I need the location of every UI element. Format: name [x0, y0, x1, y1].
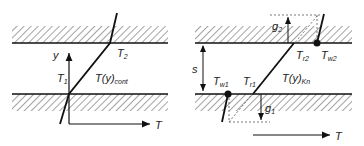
- t-axis-label: T: [335, 130, 343, 142]
- tw1-label: Tw1: [213, 75, 229, 88]
- left-panel: y T T1 T2 T(y)cont: [12, 13, 168, 131]
- tw1-point: [225, 91, 232, 98]
- bottom-wall-hatch: [12, 94, 168, 111]
- tw2-label: Tw2: [321, 49, 337, 62]
- gap-label: s: [192, 63, 198, 75]
- t-axis-label: T: [155, 119, 163, 131]
- top-wall-hatch: [12, 26, 168, 43]
- temperature-profile-knudsen: [253, 43, 294, 94]
- right-panel: s T Tw1 Tr1 Tr2 Tw2 T(y)Kn g1 g2: [192, 14, 352, 142]
- profile-label: T(y)Kn: [282, 72, 310, 85]
- y-axis-label: y: [52, 49, 60, 61]
- t2-label: T2: [117, 47, 128, 60]
- g2-label: g2: [272, 20, 282, 33]
- tw2-point: [314, 40, 321, 47]
- diagram-canvas: y T T1 T2 T(y)cont s T: [0, 0, 364, 146]
- t1-label: T1: [57, 72, 68, 85]
- tr2-label: Tr2: [296, 49, 309, 62]
- tr1-label: Tr1: [243, 75, 256, 88]
- profile-label: T(y)cont: [95, 72, 129, 85]
